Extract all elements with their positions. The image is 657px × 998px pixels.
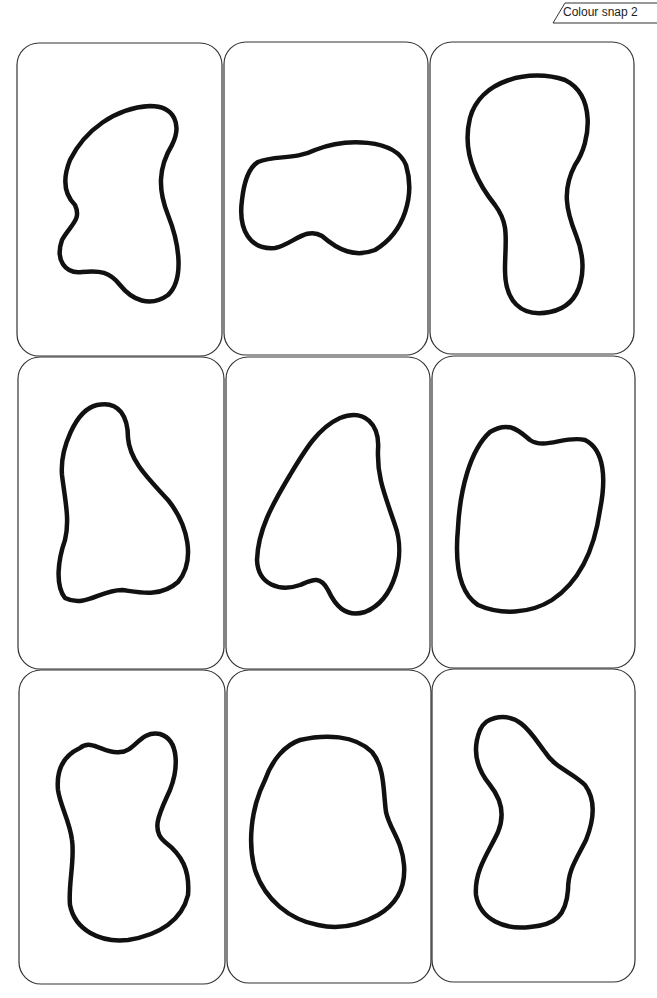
card-r3c1 bbox=[19, 670, 225, 984]
blob-shape-3 bbox=[468, 76, 588, 314]
card-r2c2 bbox=[226, 357, 430, 669]
blob-shape-1 bbox=[60, 106, 179, 302]
blob-shape-6 bbox=[457, 427, 603, 612]
blob-shape-4 bbox=[59, 404, 188, 601]
blob-shape-7 bbox=[58, 734, 189, 941]
card-r2c3 bbox=[432, 356, 635, 668]
card-r3c3 bbox=[432, 669, 635, 982]
blob-shape-2 bbox=[241, 142, 409, 253]
blob-shape-5 bbox=[257, 415, 399, 613]
card-r2c1 bbox=[18, 357, 224, 669]
card-r3c2 bbox=[227, 670, 431, 983]
blob-shape-9 bbox=[476, 717, 593, 927]
card-r1c1 bbox=[17, 43, 222, 356]
card-grid bbox=[0, 0, 657, 998]
card-r1c3 bbox=[430, 42, 634, 354]
card-r1c2 bbox=[224, 42, 428, 355]
blob-shape-8 bbox=[251, 737, 404, 927]
